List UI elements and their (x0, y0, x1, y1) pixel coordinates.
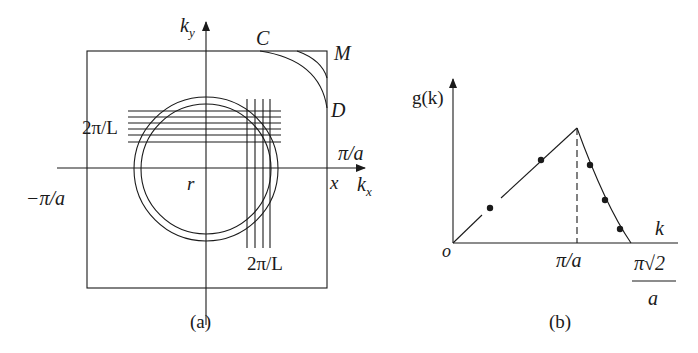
data-point (538, 157, 544, 163)
g-axis-label: g(k) (412, 87, 444, 109)
tick-pi-sqrt2-numerator: π√2 (634, 252, 665, 274)
label-2pi-L-horizontal: 2π/L (82, 117, 118, 138)
tick-pi-a: π/a (556, 249, 582, 271)
figure: ky C M D 2π/L π/a r x kx −π/a 2π/L (a) g… (0, 0, 698, 353)
caption-b: (b) (549, 311, 571, 333)
label-2pi-L-vertical: 2π/L (247, 253, 283, 274)
label-M: M (333, 42, 352, 64)
panel-b (453, 79, 678, 243)
density-rising-segment-1 (453, 215, 482, 243)
arc-M (297, 51, 327, 78)
label-r: r (187, 173, 195, 194)
density-rising-segment-2 (501, 128, 577, 198)
kx-label: kx (357, 173, 372, 199)
panel-a-labels: ky C M D 2π/L π/a r x kx −π/a 2π/L (a) (26, 14, 372, 333)
label-D: D (330, 99, 346, 121)
brillouin-zone-square (87, 51, 327, 288)
origin-label: o (442, 241, 451, 261)
ky-label: ky (180, 14, 195, 40)
k-axis-label: k (655, 217, 665, 239)
panel-a (57, 22, 365, 325)
caption-a: (a) (190, 311, 211, 333)
data-point (587, 162, 593, 168)
label-neg-pi-a: −π/a (26, 187, 65, 209)
label-x: x (329, 172, 339, 193)
tick-pi-sqrt2-denominator: a (648, 287, 658, 309)
density-falling-curve (577, 128, 631, 243)
horizontal-grid-lines (128, 111, 281, 142)
panel-b-labels: g(k) k o π/a π√2 a (b) (412, 87, 676, 333)
data-point (487, 205, 493, 211)
label-C: C (256, 27, 270, 49)
label-pi-a: π/a (338, 142, 364, 164)
data-point (617, 226, 623, 232)
data-point (602, 197, 608, 203)
data-points (487, 157, 623, 232)
